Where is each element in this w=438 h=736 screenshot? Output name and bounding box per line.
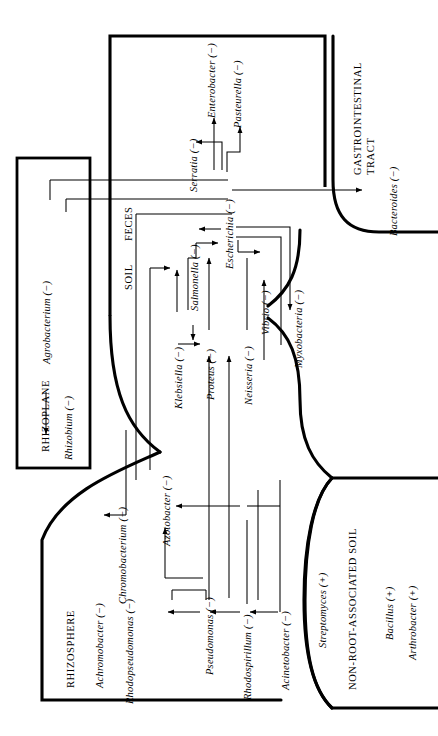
label-rhodopseudomonas: Rhodopseudomonas (−) xyxy=(125,599,136,704)
arrow-escherichia-pasteurella xyxy=(227,127,240,172)
label-arthrobacter: Arthrobacter (+) xyxy=(408,586,419,660)
gastrointestinal-boundary xyxy=(333,36,438,232)
label-streptomyces: Streptomyces (+) xyxy=(318,573,329,649)
soil-boundary xyxy=(110,316,160,452)
label-rhizosphere: RHIZOSPHERE xyxy=(66,610,77,688)
label-achromobacter: Achromobacter (−) xyxy=(95,603,106,688)
label-non-root-associated-soil: NON-ROOT-ASSOCIATED SOIL xyxy=(348,528,359,690)
label-proteus: Proteus (−) xyxy=(206,349,217,400)
label-feces: FECES xyxy=(124,206,135,241)
label-bacteroides: Bacteroides (−) xyxy=(389,167,400,236)
label-neisseria: Neisseria (−) xyxy=(244,346,255,405)
label-gastrointestinal-line1: GASTROINTESTINAL xyxy=(353,62,364,175)
label-klebsiella: Klebsiella (−) xyxy=(174,347,185,409)
rhizoplane-boundary xyxy=(17,158,90,468)
arrow-escherichia-serratia xyxy=(196,142,222,170)
label-rhizobium: Rhizobium (−) xyxy=(64,396,75,460)
label-bacillus: Bacillus (+) xyxy=(385,586,396,640)
label-pseudomonas: Pseudomonas (−) xyxy=(205,597,216,675)
label-gastrointestinal-line2: TRACT xyxy=(366,138,377,175)
label-serratia: Serratia (−) xyxy=(189,138,200,192)
label-vibrio: Vibrio (−) xyxy=(261,290,272,335)
label-soil: SOIL xyxy=(124,264,135,290)
label-agrobacterium: Agrobacterium (−) xyxy=(42,281,53,364)
label-salmonella: Salmonella (−) xyxy=(190,244,201,311)
label-pasteurella: Pasteurella (−) xyxy=(233,60,244,128)
label-azotobacter: Azotobacter (−) xyxy=(162,476,173,546)
connector-arrows xyxy=(46,118,362,612)
diagram-canvas: Enterobacter (−) Pasteurella (−) Serrati… xyxy=(0,0,438,736)
label-chromobacterium: Chromobacterium (−) xyxy=(118,507,129,604)
label-enterobacter: Enterobacter (−) xyxy=(207,43,218,118)
line-escherichia-myxobacteria-2 xyxy=(236,237,281,345)
label-myxobacteria: Myxobacteria (−) xyxy=(294,290,305,368)
label-escherichia: Escherichia (−) xyxy=(225,199,236,269)
label-acinetobacter: Acinetobacter (−) xyxy=(281,611,292,690)
label-rhizoplane: RHIZOPLANE xyxy=(41,380,52,452)
label-rhodospirillum: Rhodospirillum (−) xyxy=(243,614,254,700)
